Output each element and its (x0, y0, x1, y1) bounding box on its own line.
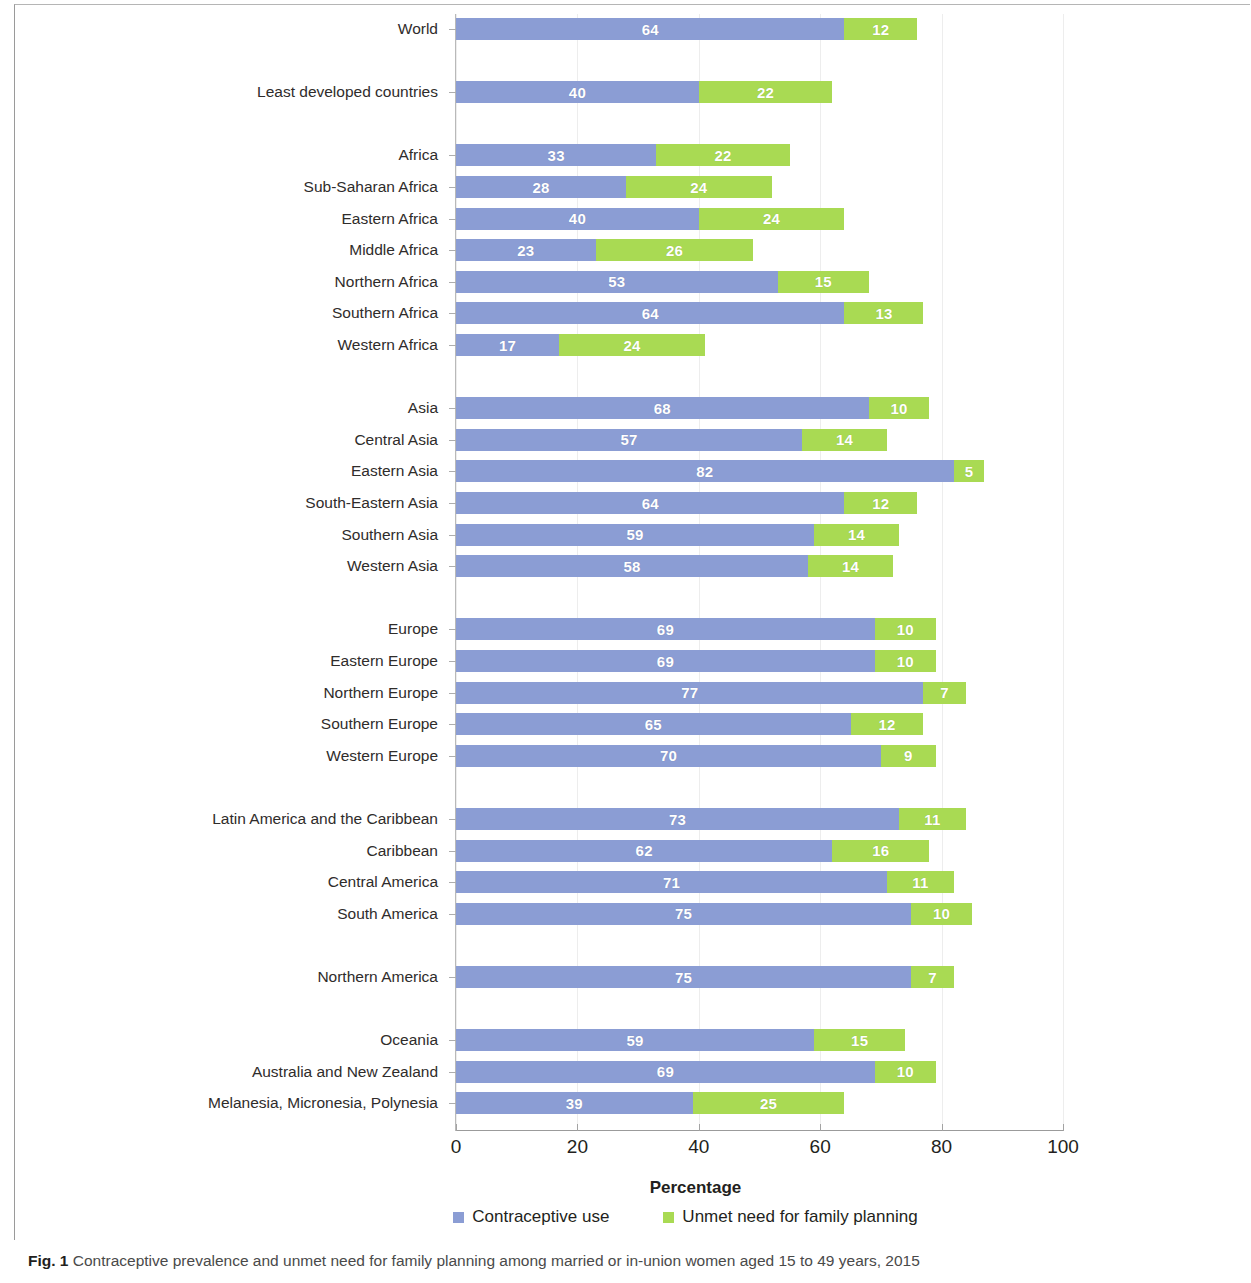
chart-legend: Contraceptive use Unmet need for family … (0, 1207, 1251, 1227)
bar-segment-contraceptive-use: 70 (456, 745, 881, 767)
category-tick (449, 155, 456, 156)
figure-caption: Fig. 1 Contraceptive prevalence and unme… (28, 1252, 1228, 1270)
category-tick (449, 882, 456, 883)
category-tick (449, 408, 456, 409)
bar-row: 5714 (456, 429, 887, 451)
bar-segment-unmet-need: 10 (869, 397, 930, 419)
bar-segment-contraceptive-use: 64 (456, 302, 844, 324)
bar-row: 3322 (456, 144, 790, 166)
bar-value-label: 22 (715, 148, 732, 163)
bar-row: 1724 (456, 334, 705, 356)
bar-row: 3925 (456, 1092, 844, 1114)
value-tick-label: 40 (688, 1136, 709, 1158)
value-tick (820, 1124, 821, 1131)
bar-row: 5914 (456, 524, 899, 546)
bar-value-label: 23 (517, 243, 534, 258)
bar-row: 4024 (456, 208, 844, 230)
bar-value-label: 24 (763, 211, 780, 226)
bar-segment-unmet-need: 26 (596, 239, 754, 261)
bar-value-label: 24 (623, 338, 640, 353)
value-tick-label: 60 (810, 1136, 831, 1158)
value-tick-label: 80 (931, 1136, 952, 1158)
category-label: South-Eastern Asia (0, 492, 438, 514)
category-label: Eastern Africa (0, 208, 438, 230)
bar-value-label: 10 (897, 1064, 914, 1079)
bar-value-label: 65 (645, 717, 662, 732)
bar-row: 757 (456, 966, 954, 988)
bar-value-label: 59 (627, 527, 644, 542)
bar-value-label: 69 (657, 654, 674, 669)
green-square-icon (663, 1212, 674, 1223)
legend-label: Contraceptive use (472, 1207, 609, 1227)
bar-row: 5814 (456, 555, 893, 577)
category-label: Australia and New Zealand (0, 1061, 438, 1083)
bar-row: 6412 (456, 18, 917, 40)
value-tick (699, 1124, 700, 1131)
bar-value-label: 22 (757, 85, 774, 100)
figure-caption-prefix: Fig. 1 (28, 1252, 68, 1269)
bar-segment-contraceptive-use: 68 (456, 397, 869, 419)
bar-segment-unmet-need: 25 (693, 1092, 845, 1114)
category-label: Least developed countries (0, 81, 438, 103)
bar-segment-unmet-need: 12 (844, 18, 917, 40)
bar-segment-unmet-need: 24 (699, 208, 845, 230)
bar-segment-contraceptive-use: 40 (456, 208, 699, 230)
category-tick (449, 1040, 456, 1041)
gridline (1063, 14, 1064, 1130)
axis-title: Percentage (0, 1178, 1251, 1198)
category-tick (449, 535, 456, 536)
bar-segment-contraceptive-use: 73 (456, 808, 899, 830)
category-label: Southern Africa (0, 302, 438, 324)
bar-value-label: 7 (928, 970, 937, 985)
legend-item-contraceptive-use: Contraceptive use (453, 1207, 609, 1227)
bar-segment-unmet-need: 10 (875, 650, 936, 672)
bar-segment-unmet-need: 10 (875, 1061, 936, 1083)
bar-value-label: 69 (657, 622, 674, 637)
bar-segment-contraceptive-use: 64 (456, 18, 844, 40)
bar-segment-unmet-need: 15 (778, 271, 869, 293)
category-label: World (0, 18, 438, 40)
bar-row: 2824 (456, 176, 772, 198)
bar-segment-contraceptive-use: 69 (456, 618, 875, 640)
category-label: Southern Europe (0, 713, 438, 735)
bar-segment-contraceptive-use: 77 (456, 682, 923, 704)
bar-segment-unmet-need: 7 (911, 966, 953, 988)
bar-value-label: 28 (532, 180, 549, 195)
bar-segment-unmet-need: 22 (656, 144, 790, 166)
category-tick (449, 819, 456, 820)
bar-segment-unmet-need: 10 (911, 903, 972, 925)
bar-value-label: 57 (620, 432, 637, 447)
bar-segment-unmet-need: 7 (923, 682, 965, 704)
bar-value-label: 15 (815, 274, 832, 289)
bar-value-label: 62 (636, 843, 653, 858)
category-label: Latin America and the Caribbean (0, 808, 438, 830)
bar-segment-contraceptive-use: 59 (456, 1029, 814, 1051)
bar-value-label: 77 (681, 685, 698, 700)
bar-value-label: 11 (924, 812, 940, 827)
category-label: Eastern Europe (0, 650, 438, 672)
bar-segment-unmet-need: 22 (699, 81, 833, 103)
bar-value-label: 15 (851, 1033, 868, 1048)
bar-segment-contraceptive-use: 69 (456, 650, 875, 672)
bar-segment-unmet-need: 13 (844, 302, 923, 324)
bar-segment-contraceptive-use: 23 (456, 239, 596, 261)
bar-segment-unmet-need: 9 (881, 745, 936, 767)
bar-segment-contraceptive-use: 33 (456, 144, 656, 166)
bar-value-label: 16 (872, 843, 889, 858)
category-tick (449, 503, 456, 504)
bar-segment-unmet-need: 14 (808, 555, 893, 577)
bar-value-label: 73 (669, 812, 686, 827)
bar-segment-unmet-need: 11 (899, 808, 966, 830)
category-label: Central America (0, 871, 438, 893)
category-tick (449, 219, 456, 220)
bar-segment-contraceptive-use: 57 (456, 429, 802, 451)
category-tick (449, 187, 456, 188)
category-tick (449, 1072, 456, 1073)
bar-value-label: 5 (965, 464, 974, 479)
category-tick (449, 724, 456, 725)
bar-segment-contraceptive-use: 39 (456, 1092, 693, 1114)
value-tick (456, 1124, 457, 1131)
bar-value-label: 71 (663, 875, 680, 890)
bar-row: 5315 (456, 271, 869, 293)
bar-value-label: 39 (566, 1096, 583, 1111)
